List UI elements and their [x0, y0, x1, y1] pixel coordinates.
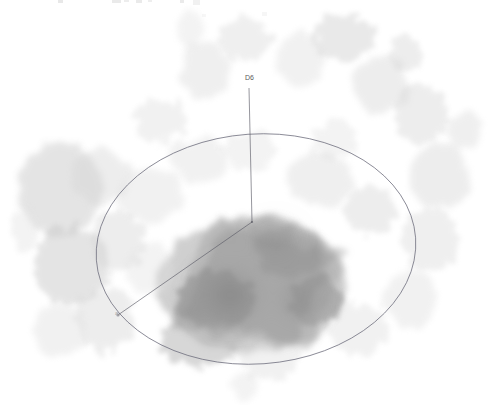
density-blob	[170, 138, 230, 182]
density-blob	[11, 208, 39, 252]
density-blob	[402, 208, 458, 272]
density-blob	[389, 37, 421, 73]
axis-label-lower-left: a	[115, 310, 118, 317]
center-vertex-marker	[251, 221, 253, 223]
density-blob	[134, 98, 186, 142]
density-blob	[313, 120, 357, 160]
density-blob	[449, 110, 481, 150]
density-blob	[392, 85, 448, 145]
volume-rendering-canvas: D6 a	[0, 0, 490, 417]
density-blob	[410, 141, 470, 209]
density-blob	[286, 154, 354, 206]
render-surface	[0, 0, 490, 417]
top-edge-clipped-marks	[58, 0, 267, 17]
density-blob	[315, 14, 375, 62]
density-blob	[231, 371, 259, 399]
density-blob	[34, 304, 86, 356]
density-blob	[344, 186, 396, 234]
density-blob	[384, 270, 436, 330]
density-blob	[116, 169, 184, 221]
density-cloud	[11, 12, 481, 399]
density-blob	[176, 12, 204, 48]
axis-label-top: D6	[245, 74, 254, 81]
density-blob	[330, 304, 390, 356]
density-blob	[219, 18, 271, 62]
density-blob	[126, 244, 174, 296]
